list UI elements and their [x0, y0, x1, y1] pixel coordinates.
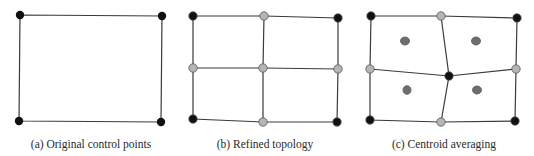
control-point: [333, 118, 341, 126]
refined-point: [260, 12, 268, 20]
refined-point: [259, 118, 267, 126]
vertical-split: [441, 16, 449, 122]
control-point: [334, 14, 342, 22]
panel-a-original-control-points: [19, 15, 162, 122]
control-point: [157, 118, 165, 126]
caption-c: (c) Centroid averaging: [355, 138, 533, 150]
control-polygon: [19, 15, 162, 122]
control-point: [158, 12, 166, 20]
caption-a: (a) Original control points: [2, 138, 180, 150]
control-point: [367, 12, 375, 20]
panel-c-centroid-averaging: [370, 16, 517, 122]
refined-point: [437, 12, 445, 20]
control-point: [189, 12, 197, 20]
control-point: [16, 11, 24, 19]
refined-point: [334, 65, 342, 73]
caption-b: (b) Refined topology: [176, 138, 354, 150]
centroid-point: [401, 37, 410, 45]
refined-point: [189, 64, 197, 72]
control-point: [189, 115, 197, 123]
refined-point: [437, 118, 445, 126]
control-point: [15, 117, 23, 125]
diagram-canvas: [0, 0, 534, 156]
horizontal-split: [370, 69, 516, 76]
centroid-point: [403, 86, 411, 95]
refined-point: [366, 65, 374, 73]
refined-point: [512, 65, 520, 73]
centroid-point: [473, 86, 482, 94]
refined-point: [259, 64, 267, 72]
panel-a-points: [15, 11, 166, 126]
centroid-point: [472, 37, 481, 45]
control-point: [513, 14, 521, 22]
control-point: [366, 116, 374, 124]
center-point: [445, 72, 453, 80]
control-point: [511, 117, 519, 125]
